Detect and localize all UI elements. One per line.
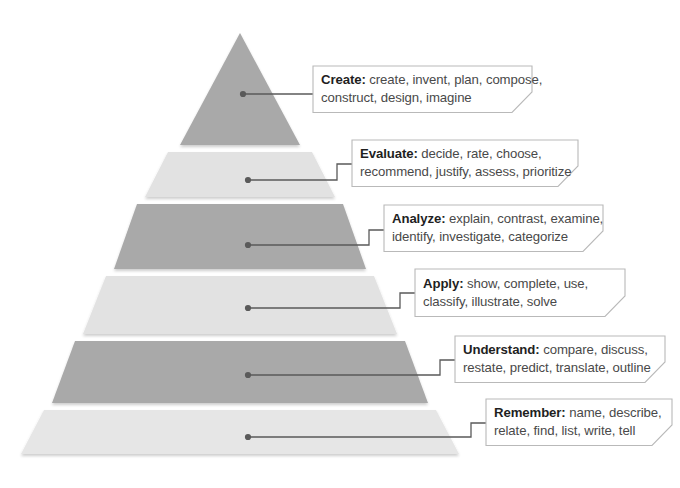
callout-term-create: Create: [321,72,366,87]
pyramid-level-create [180,33,300,145]
pyramid-level-understand [52,341,428,403]
connector-dot-remember [245,434,251,440]
callout-remember[interactable]: Remember: name, describe, relate, find, … [486,399,672,446]
callout-create[interactable]: Create: create, invent, plan, compose, c… [313,66,532,113]
connector-dot-analyze [245,242,251,248]
callout-apply[interactable]: Apply: show, complete, use, classify, il… [415,269,625,317]
band-shape-understand [52,341,428,403]
callout-term-evaluate: Evaluate: [360,146,418,161]
band-shape-create [180,33,300,145]
callout-verbs-understand-line1: compare, discuss, [543,342,648,357]
callout-verbs-analyze-line2: identify, investigate, categorize [392,228,595,246]
band-shape-evaluate [145,152,335,197]
pyramid-level-analyze [114,204,366,269]
callout-evaluate[interactable]: Evaluate: decide, rate, choose, recommen… [352,140,578,187]
callout-term-apply: Apply: [423,276,463,291]
callout-verbs-evaluate-line1: decide, rate, choose, [421,146,541,161]
band-shape-analyze [114,204,366,269]
callout-verbs-understand-line2: restate, predict, translate, outline [463,359,657,377]
bloom-taxonomy-diagram: Create: create, invent, plan, compose, c… [0,0,680,488]
callout-verbs-create-line1: create, invent, plan, compose, [369,72,542,87]
connector-dot-evaluate [245,177,251,183]
callout-verbs-create-line2: construct, design, imagine [321,89,524,107]
connector-dot-create [240,91,246,97]
callout-verbs-apply-line2: classify, illustrate, solve [423,293,617,311]
connector-dot-apply [245,305,251,311]
band-shape-remember [21,410,459,454]
callout-verbs-analyze-line1: explain, contrast, examine, [449,211,603,226]
callout-verbs-evaluate-line2: recommend, justify, assess, prioritize [360,163,570,181]
callout-term-remember: Remember: [494,405,566,420]
callout-term-understand: Understand: [463,342,540,357]
pyramid-level-evaluate [145,152,335,197]
callout-verbs-apply-line1: show, complete, use, [467,276,588,291]
callout-analyze[interactable]: Analyze: explain, contrast, examine, ide… [384,205,603,252]
callout-verbs-remember-line1: name, describe, [569,405,661,420]
pyramid-level-remember [21,410,459,454]
callout-understand[interactable]: Understand: compare, discuss, restate, p… [455,336,665,383]
pyramid-level-apply [83,276,397,334]
callout-verbs-remember-line2: relate, find, list, write, tell [494,422,664,440]
callout-term-analyze: Analyze: [392,211,445,226]
band-shape-apply [83,276,397,334]
connector-dot-understand [245,372,251,378]
